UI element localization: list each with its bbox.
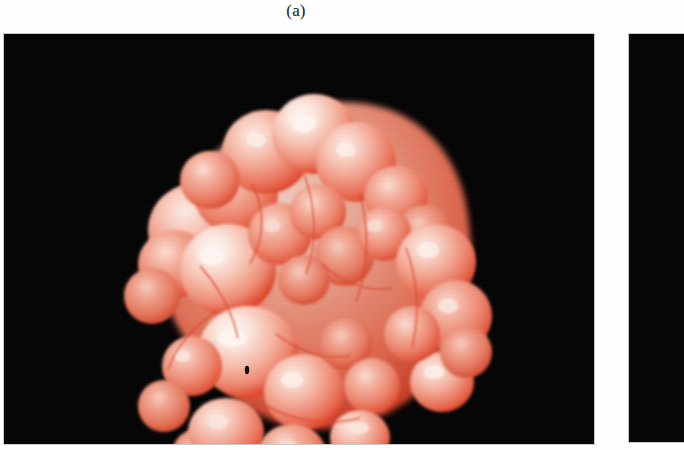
panel-b-cropped [629,34,684,442]
figure-root: (a) [0,0,684,450]
surface-pit [245,366,249,374]
panel-a-molecular-surface [4,34,594,444]
molecular-surface-image [4,34,594,444]
panel-b-film-grain [629,34,684,442]
panel-a-caption: (a) [0,1,592,21]
